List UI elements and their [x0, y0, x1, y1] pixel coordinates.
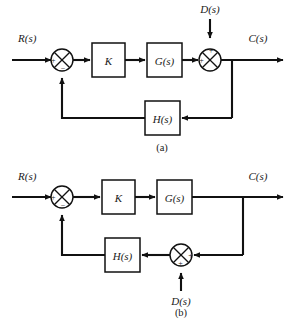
wire-h-to-error-b [62, 215, 105, 255]
block-plant-label-b: G(s) [165, 192, 185, 205]
block-plant-a: G(s) [147, 43, 182, 77]
summing-junction-error-a: + − [51, 49, 73, 73]
summing-junction-error-b: + − [51, 186, 73, 210]
diagram-a: R(s) + − K G(s) [12, 3, 283, 154]
output-label-b: C(s) [249, 170, 268, 183]
block-gain-label-a: K [104, 55, 113, 67]
sum-sign-plus-bottom-b2: + [178, 259, 183, 268]
sum-sign-plus-top-a2: + [209, 46, 214, 55]
block-feedback-a: H(s) [145, 101, 180, 135]
output-label-a: C(s) [249, 32, 268, 45]
block-feedback-label-a: H(s) [152, 113, 173, 126]
wire-h-to-error-a [62, 78, 145, 118]
summing-junction-disturbance-a: + + [199, 46, 221, 71]
sum-sign-plus-a1: + [51, 56, 56, 65]
summing-junction-disturbance-b: + + [170, 244, 193, 268]
block-gain-b: K [102, 180, 135, 214]
block-gain-a: K [92, 43, 125, 77]
diagram-canvas: R(s) + − K G(s) [0, 0, 300, 319]
sum-sign-minus-a1: − [61, 64, 66, 73]
caption-b: (b) [175, 307, 188, 319]
block-feedback-label-b: H(s) [112, 250, 133, 263]
sum-sign-plus-b1: + [51, 193, 56, 202]
block-diagram-figure: R(s) + − K G(s) [0, 0, 300, 319]
sum-sign-plus-left-a2: + [199, 56, 204, 65]
input-label-a: R(s) [17, 32, 37, 45]
diagram-b: R(s) + − K G(s) [12, 170, 283, 319]
disturbance-label-a: D(s) [199, 3, 220, 16]
sum-sign-minus-b1: − [61, 201, 66, 210]
block-feedback-b: H(s) [105, 238, 140, 272]
caption-a: (a) [156, 142, 168, 154]
sum-sign-plus-right-b2: + [188, 251, 193, 260]
block-plant-b: G(s) [157, 180, 192, 214]
block-plant-label-a: G(s) [155, 55, 175, 68]
input-label-b: R(s) [17, 170, 37, 183]
block-gain-label-b: K [114, 192, 123, 204]
